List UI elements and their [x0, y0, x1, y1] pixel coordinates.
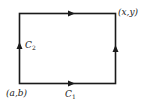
start-point-label: (a,b): [6, 89, 27, 98]
c1-main: C: [65, 89, 72, 99]
end-point-label: (x,y): [118, 8, 138, 17]
c2-main: C: [25, 40, 32, 50]
c2-subscript: 2: [32, 44, 36, 51]
c1-subscript: 1: [72, 93, 76, 100]
arrow-up-icon: [17, 42, 23, 49]
arrow-up-icon: [113, 45, 119, 52]
c2-label: C2: [25, 41, 36, 51]
c1-label: C1: [65, 90, 76, 100]
arrow-right-icon: [68, 11, 75, 17]
arrow-right-icon: [68, 81, 75, 87]
